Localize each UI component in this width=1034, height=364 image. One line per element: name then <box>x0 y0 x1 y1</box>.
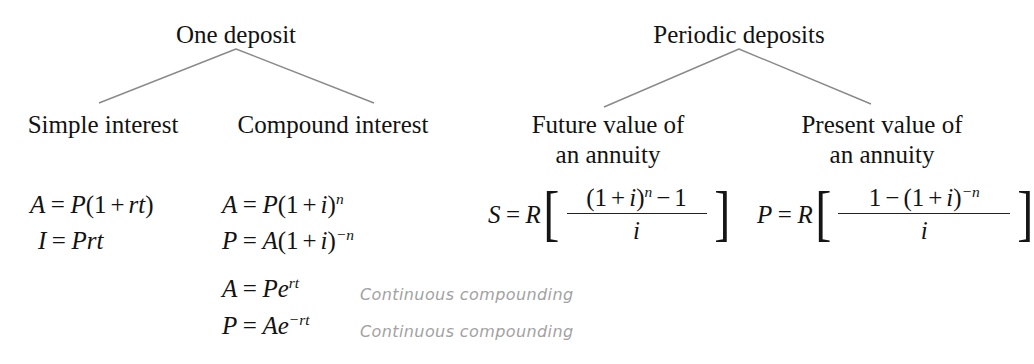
formula-lhs: P <box>222 312 237 339</box>
formula-lhs: S <box>488 202 501 227</box>
fraction-numerator: (1+i)n−1 <box>584 185 689 213</box>
leaf-line-1: Future value of <box>513 110 703 140</box>
formula-rhs: A(1+i) <box>262 227 336 254</box>
numerator-exponent: −n <box>962 183 980 200</box>
formula-exponent: rt <box>289 274 299 291</box>
tree-root-periodic-deposits: Periodic deposits <box>634 22 844 47</box>
fraction: 1−(1+i)−n i <box>832 185 1016 243</box>
formula-rhs: Prt <box>71 227 103 254</box>
annotation-continuous-compounding-amount: Continuous compounding <box>360 285 574 304</box>
formula-compound-amount: A=P(1+i)n <box>222 192 344 217</box>
formula-equals: = <box>237 312 262 339</box>
fraction-numerator: 1−(1+i)−n <box>867 185 982 213</box>
tree-leaf-present-value-annuity: Present value of an annuity <box>787 110 977 169</box>
formula-lhs: A <box>30 191 45 218</box>
bracket-left-icon: [ <box>543 185 559 243</box>
formula-coefficient: R <box>797 202 812 227</box>
leaf-line-2: an annuity <box>513 140 703 170</box>
formula-coefficient: R <box>526 202 541 227</box>
tree-root-one-deposit: One deposit <box>136 22 336 47</box>
bracketed-fraction: [ (1+i)n−1 i ] <box>541 185 732 243</box>
tree-leaf-future-value-annuity: Future value of an annuity <box>513 110 703 169</box>
leaf-line-2: an annuity <box>787 140 977 170</box>
formula-exponent: −n <box>336 226 354 243</box>
fraction-denominator: i <box>631 214 642 243</box>
formula-continuous-present: P=Ae−rt <box>222 313 310 338</box>
formula-lhs: P <box>757 202 772 227</box>
formula-rhs: P(1+i) <box>262 191 336 218</box>
formula-present-value-annuity: P=R [ 1−(1+i)−n i ] <box>757 185 1034 243</box>
formula-equals: = <box>237 227 262 254</box>
formula-equals: = <box>501 202 526 227</box>
bracketed-fraction: [ 1−(1+i)−n i ] <box>813 185 1034 243</box>
formula-rhs: P(1+rt) <box>70 191 153 218</box>
connector-periodic-deposits <box>604 49 871 107</box>
formula-rhs: Pe <box>262 275 288 302</box>
fraction-denominator: i <box>919 214 930 243</box>
formula-simple-interest-amount: A=P(1+rt) <box>30 192 154 217</box>
bracket-left-icon: [ <box>815 185 831 243</box>
formula-equals: = <box>772 202 797 227</box>
leaf-line-1: Present value of <box>787 110 977 140</box>
formula-lhs: A <box>222 191 237 218</box>
formula-compound-present: P=A(1+i)−n <box>222 228 354 253</box>
formula-exponent: −rt <box>289 311 310 328</box>
formula-equals: = <box>46 227 71 254</box>
bracket-right-icon: ] <box>714 185 730 243</box>
fraction: (1+i)n−1 i <box>561 185 713 243</box>
formula-simple-interest-interest: I=Prt <box>38 228 103 253</box>
connector-one-deposit <box>99 49 374 103</box>
tree-leaf-simple-interest: Simple interest <box>3 110 203 140</box>
formula-exponent: n <box>336 190 344 207</box>
tree-leaf-compound-interest: Compound interest <box>235 110 431 140</box>
bracket-right-icon: ] <box>1018 185 1034 243</box>
formula-lhs: P <box>222 227 237 254</box>
formula-rhs: Ae <box>262 312 288 339</box>
formula-continuous-amount: A=Pert <box>222 276 299 301</box>
formula-equals: = <box>45 191 70 218</box>
annotation-continuous-compounding-present: Continuous compounding <box>360 322 574 341</box>
formula-equals: = <box>237 275 262 302</box>
formula-equals: = <box>237 191 262 218</box>
formula-future-value-annuity: S=R [ (1+i)n−1 i ] <box>488 185 732 243</box>
formula-lhs: A <box>222 275 237 302</box>
